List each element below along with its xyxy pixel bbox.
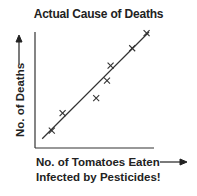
x-marker-icon	[129, 45, 135, 51]
x-marker-icon	[60, 110, 66, 116]
y-arrow-icon	[16, 35, 22, 64]
x-marker-icon	[93, 95, 99, 101]
x-marker-icon	[104, 78, 110, 84]
x-marker-icon	[144, 30, 150, 36]
x-marker-icon	[108, 63, 114, 69]
scatter-plot	[0, 0, 197, 196]
x-arrow-icon	[160, 159, 187, 165]
